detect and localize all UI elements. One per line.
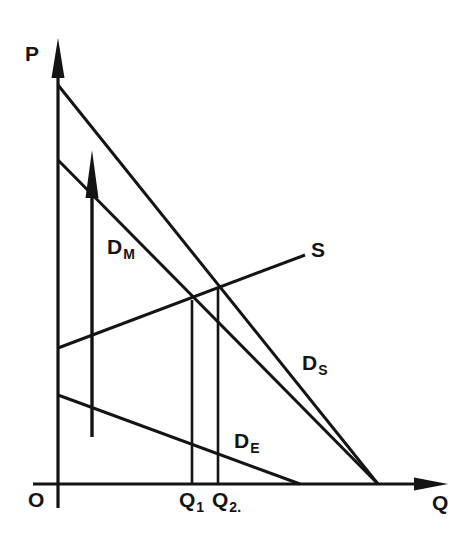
tick-label-q2-base: Q — [212, 488, 228, 511]
supply-curve-s-line — [58, 255, 305, 348]
demand-curve-ds-label-base: D — [302, 351, 317, 374]
demand-curve-ds-label-sub: S — [318, 362, 327, 378]
supply-demand-figure: P Q O S DM DS DE Q1 Q2. — [0, 0, 466, 549]
demand-curve-dm-label: DM — [107, 236, 134, 257]
q-axis-label: Q — [432, 492, 448, 513]
demand-curve-dm-label-base: D — [107, 235, 122, 258]
origin-label: O — [28, 489, 44, 510]
demand-shift-arrow — [86, 150, 99, 437]
tick-label-q1-base: Q — [179, 488, 195, 511]
q-axis-arrow-icon — [414, 478, 448, 491]
demand-shift-arrow-head-icon — [86, 150, 99, 198]
demand-curve-de-label-sub: E — [250, 440, 259, 456]
demand-curve-dm-label-sub: M — [123, 246, 135, 262]
tick-label-q2: Q2. — [212, 489, 240, 510]
demand-curve-de-label: DE — [234, 430, 259, 451]
p-axis-arrow-icon — [52, 38, 65, 78]
p-axis-label: P — [25, 43, 39, 64]
demand-curve-de-label-base: D — [234, 429, 249, 452]
tick-label-q1-sub: 1 — [196, 499, 204, 515]
tick-label-q1: Q1 — [179, 489, 203, 510]
tick-label-q2-sub: 2. — [229, 499, 241, 515]
demand-curve-ds-label: DS — [302, 352, 327, 373]
demand-curve-de-line — [58, 395, 300, 484]
supply-curve-label: S — [311, 239, 325, 260]
diagram-canvas — [0, 0, 466, 549]
